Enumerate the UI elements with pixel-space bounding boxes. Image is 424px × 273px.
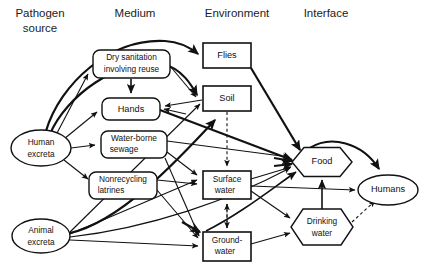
node-animal-excreta[interactable]: Animal excreta <box>12 219 70 253</box>
node-humans[interactable]: Humans <box>358 175 418 205</box>
groundwater-label-line2: water <box>214 246 236 256</box>
column-heading-interface: Interface <box>304 7 349 19</box>
edge-flies-to-food <box>251 68 300 150</box>
dry-sanitation-label-line1: Dry sanitation <box>106 52 157 62</box>
node-human-excreta[interactable]: Human excreta <box>11 130 71 166</box>
animal-excreta-label-line1: Animal <box>28 225 54 235</box>
node-surface-water[interactable]: Surface water <box>203 171 251 199</box>
nonrecycling-latrines-label-line2: latrines <box>98 185 125 195</box>
edge-human-excreta-to-nonrecycling-latrines <box>64 160 88 179</box>
surface-water-label-line2: water <box>214 185 236 195</box>
humans-label: Humans <box>371 184 406 194</box>
column-heading-medium: Medium <box>115 7 156 19</box>
node-groundwater[interactable]: Ground- water <box>203 232 251 261</box>
node-drinking-water[interactable]: Drinking water <box>291 209 353 245</box>
human-excreta-shape <box>11 130 71 166</box>
diagram-root: Pathogen source Medium Environment Inter… <box>0 0 424 273</box>
animal-excreta-label-line2: excreta <box>27 237 55 247</box>
node-dry-sanitation[interactable]: Dry sanitation involving reuse <box>93 50 170 78</box>
food-label: Food <box>312 156 333 166</box>
edge-dry-sanitation-to-soil <box>170 66 196 97</box>
water-borne-sewage-label-line1: Water-borne <box>111 133 157 143</box>
column-headings: Pathogen source Medium Environment Inter… <box>15 7 348 34</box>
surface-water-label-line1: Surface <box>213 174 242 184</box>
node-food[interactable]: Food <box>292 148 352 177</box>
drinking-water-label-line2: water <box>311 228 333 238</box>
nodes-layer: Human excreta Animal excreta Dry sanitat… <box>11 43 418 261</box>
human-excreta-label-line2: excreta <box>27 149 55 159</box>
column-heading-pathogen-source-line1: Pathogen <box>15 7 64 19</box>
column-heading-environment: Environment <box>205 7 270 19</box>
node-flies[interactable]: Flies <box>203 43 251 68</box>
edge-human-excreta-to-water-borne-sewage <box>71 145 95 148</box>
drinking-water-shape <box>291 209 353 245</box>
dry-sanitation-label-line2: involving reuse <box>104 64 160 74</box>
node-nonrecycling-latrines[interactable]: Nonrecycling latrines <box>89 172 157 199</box>
human-excreta-label-line1: Human <box>28 137 55 147</box>
flies-label: Flies <box>217 50 237 60</box>
edge-surface-water-to-humans <box>251 186 355 190</box>
nonrecycling-latrines-label-line1: Nonrecycling <box>99 174 147 184</box>
column-heading-pathogen-source-line2: source <box>23 22 58 34</box>
edge-water-borne-sewage-to-groundwater <box>165 158 199 236</box>
edge-groundwater-to-drinking-water <box>251 233 290 244</box>
edge-surface-water-to-drinking-water <box>251 191 290 218</box>
animal-excreta-shape <box>12 219 70 253</box>
edge-into-food-cluster-b <box>274 164 292 166</box>
edge-human-excreta-to-hands <box>64 112 97 139</box>
soil-label: Soil <box>219 93 234 103</box>
edge-animal-excreta-to-groundwater <box>70 240 198 246</box>
edge-hands-to-food <box>160 110 292 160</box>
groundwater-label-line1: Ground- <box>212 235 243 245</box>
drinking-water-label-line1: Drinking <box>307 216 338 226</box>
hands-label: Hands <box>118 104 145 114</box>
edge-drinking-water-to-humans <box>352 201 375 222</box>
node-water-borne-sewage[interactable]: Water-borne sewage <box>101 131 167 158</box>
edge-soil-to-hands <box>165 100 202 106</box>
water-borne-sewage-label-line2: sewage <box>110 144 139 154</box>
node-hands[interactable]: Hands <box>102 98 160 120</box>
edge-water-borne-sewage-to-food <box>167 141 289 157</box>
node-soil[interactable]: Soil <box>203 86 251 111</box>
pathogen-flow-diagram: Pathogen source Medium Environment Inter… <box>0 0 424 273</box>
